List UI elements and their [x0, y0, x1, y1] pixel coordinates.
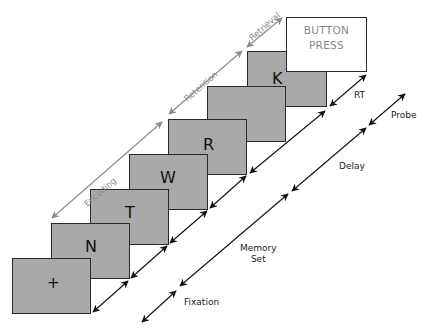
- card-letter-r: R: [203, 137, 214, 153]
- diagram-canvas: K R W T N + BUTTON PRESS: [0, 0, 425, 333]
- memory-set-label: Memory Set: [240, 243, 277, 266]
- delay-timeline-arrow: [292, 128, 366, 191]
- card-letter-w: W: [160, 170, 176, 186]
- button-press-line1: BUTTON: [287, 23, 366, 38]
- delay-label: Delay: [339, 161, 365, 172]
- probe-label: Probe: [391, 110, 417, 121]
- rt-label: RT: [354, 90, 365, 101]
- card-letter-k: K: [272, 71, 283, 87]
- fixation-card: +: [12, 258, 91, 314]
- fixation-label: Fixation: [184, 297, 219, 308]
- button-press-line2: PRESS: [287, 38, 366, 53]
- memory-set-label-line2: Set: [240, 254, 277, 265]
- card-letter-t: T: [125, 205, 135, 221]
- card-letter-n: N: [85, 239, 97, 255]
- button-press-box: BUTTON PRESS: [286, 17, 367, 72]
- fixation-timeline-arrow: [142, 291, 176, 322]
- w-duration-arrow: [210, 176, 246, 208]
- retrieval-label: Retrieval: [247, 10, 282, 42]
- n-duration-arrow: [131, 246, 167, 278]
- fixation-duration-arrow: [93, 281, 128, 312]
- memory-set-label-line1: Memory: [240, 243, 277, 254]
- t-duration-arrow: [170, 211, 207, 243]
- fixation-cross: +: [47, 276, 60, 291]
